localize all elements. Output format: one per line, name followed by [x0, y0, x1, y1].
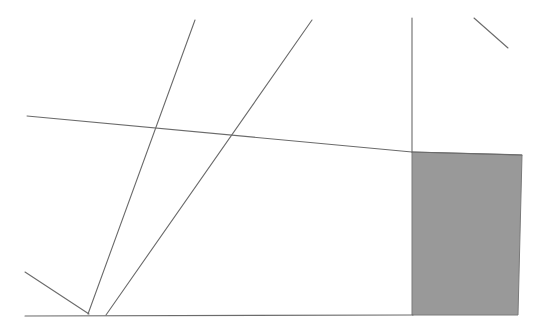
figure-container — [0, 0, 538, 336]
line-drawing-canvas — [0, 0, 538, 336]
shaded-quadrilateral — [412, 152, 522, 315]
